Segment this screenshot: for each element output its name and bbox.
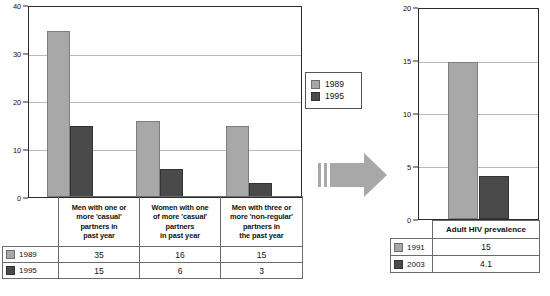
series-label: 1989	[19, 250, 37, 259]
category-line: Men with three or	[224, 203, 299, 212]
y-tick-label: 40	[13, 2, 21, 11]
category-line: partners in	[62, 222, 136, 231]
category-line: of more 'casual'	[143, 212, 217, 221]
bar-1989-men-nonregular[interactable]	[226, 126, 249, 197]
value-cell: 3	[221, 263, 303, 279]
left-bars-layer	[29, 7, 301, 197]
dark-gray-swatch-icon	[6, 266, 15, 275]
category-header-cell: Adult HIV prevalence	[433, 221, 540, 239]
category-line: more 'casual'	[62, 212, 136, 221]
legend-label: 1989	[325, 80, 344, 89]
left-plot-area	[28, 6, 302, 198]
series-label: 1991	[407, 243, 425, 252]
y-tick-label: 30	[13, 50, 21, 59]
dark-gray-swatch-icon	[394, 260, 403, 269]
value-cell: 4.1	[433, 256, 540, 273]
left-y-axis: 40 30 20 10 0	[0, 6, 28, 198]
y-tick-label: 15	[403, 57, 411, 66]
table-row: 1991 15	[391, 239, 540, 256]
category-header-cell: Men with three or more 'non-regular' par…	[221, 197, 303, 247]
right-chart-figure: 20 15 10 5 0 Adult HI	[390, 0, 550, 290]
series-label: 2003	[407, 260, 425, 269]
bar-1991-hiv-prevalence[interactable]	[448, 62, 479, 220]
bar-1995-women-casual[interactable]	[160, 169, 183, 198]
legend-item-1995[interactable]: 1995	[311, 92, 356, 101]
bar-2003-hiv-prevalence[interactable]	[479, 176, 510, 219]
legend-item-1989[interactable]: 1989	[311, 80, 356, 89]
bar-1995-men-nonregular[interactable]	[249, 183, 272, 197]
right-plot-wrapper: 20 15 10 5 0	[390, 8, 547, 220]
y-tick-label: 10	[403, 110, 411, 119]
category-line: more 'non-regular'	[224, 212, 299, 221]
table-row: 1995 15 6 3	[3, 263, 303, 279]
table-row: 2003 4.1	[391, 256, 540, 273]
dark-gray-swatch-icon	[311, 92, 320, 101]
bar-1989-women-casual[interactable]	[136, 121, 159, 197]
table-corner-cell	[391, 221, 433, 239]
series-label-cell-1995: 1995	[3, 263, 59, 279]
value-cell: 15	[221, 247, 303, 263]
left-plot-wrapper: 40 30 20 10 0	[0, 6, 302, 198]
category-line: the past year	[224, 231, 299, 240]
bar-1995-men-casual[interactable]	[70, 126, 93, 197]
left-data-table: Men with one or more 'casual' partners i…	[2, 196, 303, 279]
right-plot-area	[418, 8, 539, 220]
light-gray-swatch-icon	[394, 243, 403, 252]
category-line: Women with one	[143, 203, 217, 212]
table-header-row: Men with one or more 'casual' partners i…	[3, 197, 303, 247]
table-row: 1989 35 16 15	[3, 247, 303, 263]
series-label-cell-1991: 1991	[391, 239, 433, 256]
category-line: past year	[62, 231, 136, 240]
table-header-row: Adult HIV prevalence	[391, 221, 540, 239]
y-tick-label: 5	[407, 163, 411, 172]
value-cell: 15	[59, 263, 140, 279]
value-cell: 35	[59, 247, 140, 263]
left-chart-figure: 40 30 20 10 0	[0, 0, 305, 290]
y-tick-label: 20	[13, 98, 21, 107]
y-tick-label: 10	[13, 146, 21, 155]
value-cell: 6	[140, 263, 221, 279]
light-gray-swatch-icon	[311, 80, 320, 89]
y-tick-label: 20	[403, 4, 411, 13]
value-cell: 16	[140, 247, 221, 263]
table-corner-cell	[3, 197, 59, 247]
category-line: Men with one or	[62, 203, 136, 212]
series-label-cell-1989: 1989	[3, 247, 59, 263]
category-line: partners in	[224, 222, 299, 231]
right-block-arrow-icon	[318, 152, 388, 198]
left-chart-legend: 1989 1995	[305, 72, 362, 109]
category-line: in past year	[143, 231, 217, 240]
bar-1989-men-casual[interactable]	[47, 31, 70, 197]
series-label: 1995	[19, 266, 37, 275]
right-y-axis: 20 15 10 5 0	[390, 8, 418, 220]
category-header-cell: Men with one or more 'casual' partners i…	[59, 197, 140, 247]
value-cell: 15	[433, 239, 540, 256]
category-line: partners	[143, 222, 217, 231]
category-header-cell: Women with one of more 'casual' partners…	[140, 197, 221, 247]
series-label-cell-2003: 2003	[391, 256, 433, 273]
legend-label: 1995	[325, 92, 344, 101]
right-bars-layer	[419, 9, 538, 219]
right-data-table: Adult HIV prevalence 1991 15 2003 4.1	[390, 220, 540, 273]
light-gray-swatch-icon	[6, 250, 15, 259]
